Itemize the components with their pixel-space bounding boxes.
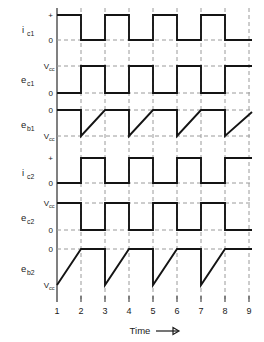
signal-label-ic1-sub: c1	[27, 30, 34, 37]
signal-label-ic1-base: i	[22, 24, 24, 35]
level-label-ic2-zero: 0	[49, 179, 54, 188]
signal-label-ec2: e c2	[21, 212, 34, 225]
right-arrow-icon	[156, 328, 179, 335]
x-tick-label-1: 1	[54, 306, 59, 316]
waveform-ec2-trace	[57, 203, 252, 230]
x-tick-label-6: 6	[174, 306, 179, 316]
level-label-ec2-zero: 0	[49, 226, 54, 235]
waveform-ic1	[57, 15, 252, 40]
signal-label-eb1-base: e	[21, 119, 26, 130]
waveform-figure: i c1 + 0 e c1 V cc 0 e b1 0 V cc i c2 + …	[0, 0, 264, 342]
signal-label-ec1-sub: c1	[27, 80, 34, 87]
signal-label-eb1-sub: b1	[27, 125, 35, 132]
waveform-eb2-trace	[57, 249, 252, 285]
waveform-eb2	[57, 249, 252, 285]
signal-label-eb2-base: e	[21, 263, 26, 274]
level-label-eb1-vcc-sub: cc	[49, 136, 55, 142]
signal-label-ic2-base: i	[22, 167, 24, 178]
x-axis-title-group: Time	[130, 325, 179, 336]
signal-label-ec2-sub: c2	[27, 218, 34, 225]
x-axis-title: Time	[130, 325, 151, 336]
signal-label-eb1: e b1	[21, 119, 35, 132]
level-label-eb1-vcc: V cc	[44, 132, 55, 142]
level-label-eb2-vcc-sub: cc	[49, 285, 55, 291]
waveform-ec1-trace	[57, 66, 252, 93]
signal-label-ic2-sub: c2	[27, 173, 34, 180]
signal-label-ec1-base: e	[21, 74, 26, 85]
level-label-ec1-vcc: V cc	[44, 62, 55, 72]
signal-label-ec1: e c1	[21, 74, 34, 87]
level-label-ic1-zero: 0	[49, 36, 54, 45]
signal-label-ic1: i c1	[22, 24, 34, 37]
waveform-ec1	[57, 66, 252, 93]
time-gridlines	[81, 8, 249, 300]
level-label-ec2-vcc-sub: cc	[49, 203, 55, 209]
level-label-ec1-zero: 0	[49, 89, 54, 98]
x-tick-label-9: 9	[246, 306, 251, 316]
x-tick-label-7: 7	[198, 306, 203, 316]
waveform-ec2	[57, 203, 252, 230]
x-tick-label-3: 3	[102, 306, 107, 316]
level-label-ic1-plus: +	[48, 11, 53, 20]
level-reference-lines	[57, 40, 252, 249]
x-tick-label-8: 8	[222, 306, 227, 316]
level-label-eb2-zero: 0	[49, 245, 54, 254]
signal-label-ic2: i c2	[22, 167, 34, 180]
signal-label-eb2-sub: b2	[27, 269, 35, 276]
level-label-ic2-plus: +	[48, 154, 53, 163]
waveform-eb1-trace	[57, 110, 252, 136]
waveform-ic1-trace	[57, 15, 252, 40]
x-axis-ticks	[81, 296, 249, 302]
signal-label-eb2: e b2	[21, 263, 35, 276]
waveform-ic2	[57, 158, 252, 183]
signal-label-ec2-base: e	[21, 212, 26, 223]
x-tick-label-4: 4	[126, 306, 131, 316]
x-tick-label-5: 5	[150, 306, 155, 316]
level-label-ec1-vcc-sub: cc	[49, 66, 55, 72]
x-tick-label-2: 2	[78, 306, 83, 316]
x-axis-tick-labels: 1 2 3 4 5 6 7 8 9	[54, 306, 251, 316]
level-label-ec2-vcc: V cc	[44, 199, 55, 209]
level-label-eb2-vcc: V cc	[44, 281, 55, 291]
waveform-eb1	[57, 110, 252, 136]
waveform-ic2-trace	[57, 158, 252, 183]
level-label-eb1-zero: 0	[49, 106, 54, 115]
